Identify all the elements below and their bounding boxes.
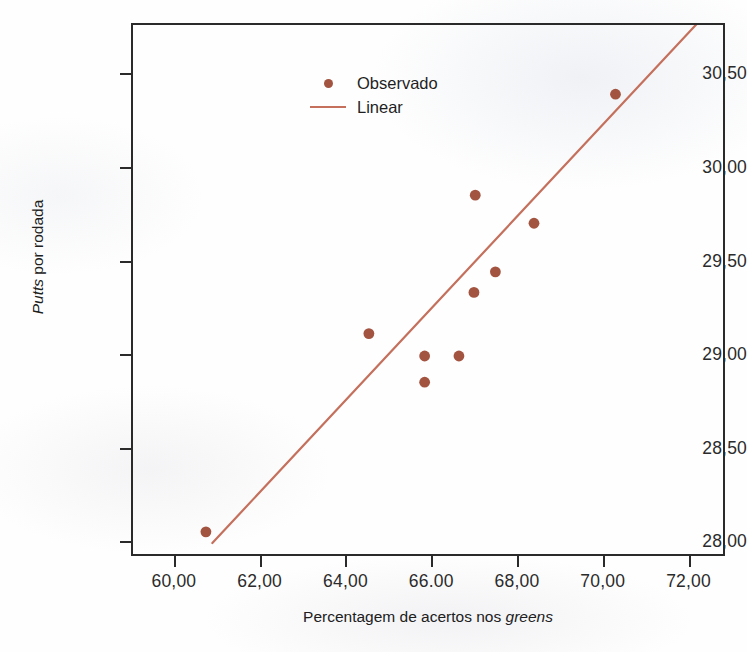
- legend-item-observado[interactable]: Observado: [299, 71, 519, 95]
- data-point[interactable]: [490, 266, 501, 277]
- x-axis-tick: [517, 556, 519, 567]
- legend-label-linear: Linear: [357, 98, 403, 117]
- x-axis-title-italic: greens: [506, 608, 553, 625]
- data-point[interactable]: [469, 287, 480, 298]
- data-point[interactable]: [454, 351, 465, 362]
- x-axis-tick: [603, 556, 605, 567]
- data-point[interactable]: [419, 351, 430, 362]
- x-axis-tick-label: 66.00: [409, 571, 454, 592]
- x-axis-tick: [260, 556, 262, 567]
- x-axis-tick-label: 68,00: [495, 571, 540, 592]
- data-point[interactable]: [201, 526, 212, 537]
- x-axis-tick-label: 60,00: [151, 571, 196, 592]
- legend-label-observado: Observado: [357, 74, 438, 93]
- legend-item-linear[interactable]: Linear: [299, 95, 519, 119]
- y-axis-tick: [120, 541, 131, 543]
- plot-area: Observado Linear: [131, 23, 725, 556]
- y-axis-tick: [120, 261, 131, 263]
- data-point[interactable]: [419, 377, 430, 388]
- x-axis-tick-label: 62,00: [237, 571, 282, 592]
- y-axis-title-plain: por rodada: [29, 200, 46, 279]
- x-axis-title-plain: Percentagem de acertos nos: [303, 608, 505, 625]
- y-axis-tick: [120, 448, 131, 450]
- y-axis-tick: [120, 73, 131, 75]
- y-axis-tick: [120, 167, 131, 169]
- y-axis-tick: [120, 354, 131, 356]
- y-axis-title: Putts por rodada: [29, 157, 47, 357]
- legend-line-icon: [299, 106, 357, 108]
- chart-figure: 28,0028,5029,0029,5030,0030,50 60,0062,0…: [0, 0, 747, 652]
- x-axis-tick: [689, 556, 691, 567]
- x-axis-tick-label: 70,00: [580, 571, 625, 592]
- data-point[interactable]: [470, 190, 481, 201]
- x-axis-tick: [174, 556, 176, 567]
- data-point[interactable]: [529, 218, 540, 229]
- y-axis-title-italic: Putts: [29, 279, 46, 314]
- x-axis-tick: [431, 556, 433, 567]
- data-point[interactable]: [363, 328, 374, 339]
- x-axis-title: Percentagem de acertos nos greens: [131, 608, 725, 626]
- x-axis-tick-label: 72,00: [666, 571, 711, 592]
- x-axis-tick-label: 64,00: [323, 571, 368, 592]
- legend-dot-icon: [299, 79, 357, 88]
- chart-legend: Observado Linear: [299, 71, 519, 119]
- x-axis-tick: [345, 556, 347, 567]
- data-point[interactable]: [610, 89, 621, 100]
